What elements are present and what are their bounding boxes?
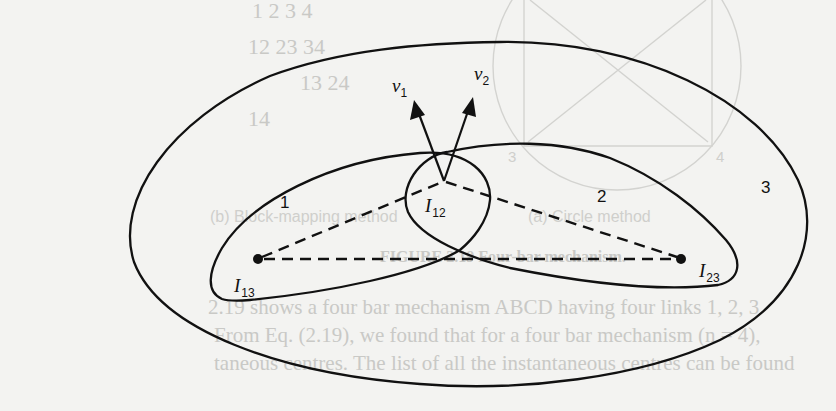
arrow-head-icon [462,97,476,117]
point-i23-dot [676,254,686,264]
ghost-body-line: From Eq. (2.19), we found that for a fou… [214,323,761,347]
i23-label: I23 [698,260,720,285]
region-label-3: 3 [761,178,770,197]
ghost-square [524,0,712,146]
region-label-2: 2 [597,187,606,206]
i12-label: I12 [424,195,446,220]
v2-label: v2 [474,63,489,88]
v1-shaft [419,114,444,181]
ghost-body-line: 2.19 shows a four bar mechanism ABCD hav… [208,295,759,319]
ghost-table-row: 13 24 [300,70,350,95]
body-1-outline [211,153,490,301]
ghost-caption: (a) Circle method [528,208,651,225]
arrow-head-icon [410,100,425,120]
ghost-diagonal [528,0,706,142]
ghost-body-line: taneous centres. The list of all the ins… [214,351,795,375]
ghost-circle-label: 4 [716,148,724,165]
ghost-diagonal [530,0,708,142]
velocity-vector-v1 [410,100,444,181]
ghost-circle-label: 3 [508,148,516,165]
ghost-table-row: 1 2 3 4 [252,0,313,23]
ghost-table-row: 12 23 34 [248,34,325,59]
ghost-table-row: 14 [248,106,270,131]
point-i13-dot [253,254,263,264]
v2-shaft [444,111,468,181]
region-label-1: 1 [280,193,289,212]
kennedy-theorem-diagram: 1 2 3 4 12 23 34 13 24 14 3 4 (a) Circle… [0,0,836,411]
ghost-caption: (b) Block-mapping method [210,208,398,225]
v1-label: v1 [392,75,407,100]
velocity-vector-v2 [444,97,476,181]
ghost-figure-caption: FIGURE 2.19 Four-bar mechanism. [380,248,626,265]
